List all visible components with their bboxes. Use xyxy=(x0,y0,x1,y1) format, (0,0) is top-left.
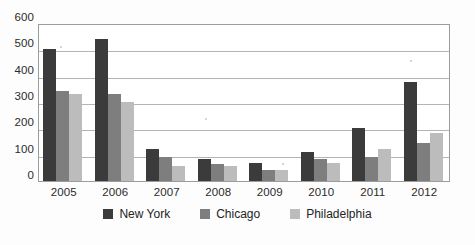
bar xyxy=(365,157,378,181)
x-axis-tick-label: 2005 xyxy=(38,186,90,199)
bar-group xyxy=(43,25,82,181)
bar xyxy=(378,149,391,181)
bar-group xyxy=(301,25,340,181)
bar xyxy=(249,163,262,181)
scan-speckle xyxy=(205,118,207,120)
bar xyxy=(417,143,430,181)
legend-item: New York xyxy=(103,208,170,220)
bar xyxy=(430,133,443,181)
x-axis-tick-label: 2012 xyxy=(398,186,450,199)
bar xyxy=(327,163,340,181)
x-axis-tick-label: 2011 xyxy=(347,186,399,199)
legend-item: Chicago xyxy=(200,208,260,220)
bar xyxy=(404,82,417,181)
bar-group xyxy=(404,25,443,181)
bar xyxy=(314,159,327,181)
bar xyxy=(211,164,224,181)
y-axis-tick-label: 0 xyxy=(0,170,34,182)
bar xyxy=(198,159,211,181)
plot-area xyxy=(38,24,450,182)
legend-label: Philadelphia xyxy=(306,208,371,220)
y-axis-tick-label: 500 xyxy=(0,39,34,51)
bar xyxy=(121,102,134,181)
y-axis-tick-label: 200 xyxy=(0,118,34,130)
bar-group xyxy=(146,25,185,181)
bar xyxy=(172,166,185,181)
bar xyxy=(301,152,314,181)
scan-speckle xyxy=(410,60,412,62)
x-axis-tick-label: 2010 xyxy=(295,186,347,199)
bar-group xyxy=(352,25,391,181)
bar-group xyxy=(198,25,237,181)
bar xyxy=(352,128,365,181)
bar xyxy=(95,39,108,181)
bar xyxy=(146,149,159,181)
bar xyxy=(69,94,82,181)
legend-label: Chicago xyxy=(216,208,260,220)
bars-layer xyxy=(39,25,449,181)
legend-swatch-icon xyxy=(200,209,210,219)
bar xyxy=(56,91,69,181)
scan-speckle xyxy=(60,46,62,48)
y-axis-tick-label: 600 xyxy=(0,12,34,24)
bar xyxy=(275,170,288,181)
bar xyxy=(159,157,172,181)
legend-label: New York xyxy=(119,208,170,220)
bar xyxy=(108,94,121,181)
bar xyxy=(224,166,237,181)
bar-chart: 6005004003002001000 20052006200720082009… xyxy=(0,0,475,245)
chart-legend: New YorkChicagoPhiladelphia xyxy=(0,208,475,220)
y-axis-tick-label: 400 xyxy=(0,65,34,77)
scan-speckle xyxy=(282,163,284,165)
legend-swatch-icon xyxy=(103,209,113,219)
legend-swatch-icon xyxy=(290,209,300,219)
x-axis-tick-label: 2009 xyxy=(244,186,296,199)
y-axis-tick-label: 300 xyxy=(0,91,34,103)
y-axis-tick-label: 100 xyxy=(0,144,34,156)
x-axis-tick-label: 2006 xyxy=(89,186,141,199)
legend-item: Philadelphia xyxy=(290,208,371,220)
bar xyxy=(262,170,275,181)
x-axis: 20052006200720082009201020112012 xyxy=(38,186,450,202)
y-axis: 6005004003002001000 xyxy=(0,18,34,186)
bar xyxy=(43,49,56,181)
x-axis-tick-label: 2007 xyxy=(141,186,193,199)
bar-group xyxy=(95,25,134,181)
x-axis-tick-label: 2008 xyxy=(192,186,244,199)
bar-group xyxy=(249,25,288,181)
